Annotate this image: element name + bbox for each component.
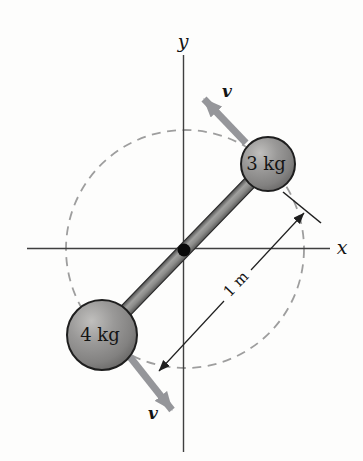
x-axis-label: x xyxy=(337,236,348,258)
velocity-label-3kg: v xyxy=(222,81,233,101)
center-pivot-dot xyxy=(178,244,191,257)
y-axis-label: y xyxy=(177,30,189,52)
velocity-label-4kg: v xyxy=(148,403,159,423)
dimension-label: 1 m xyxy=(220,267,253,300)
mass-label-4kg: 4 kg xyxy=(80,324,120,345)
physics-figure: x y 3 kg 4 kg 1 m v v xyxy=(0,0,363,461)
velocity-arrow-3kg xyxy=(204,99,246,143)
mass-label-3kg: 3 kg xyxy=(246,153,286,174)
dimension-extension-tick xyxy=(283,192,321,223)
figure-canvas: x y 3 kg 4 kg 1 m v v xyxy=(0,0,363,461)
dimension-line-lower xyxy=(159,301,224,371)
dimension-line-upper xyxy=(251,213,304,270)
